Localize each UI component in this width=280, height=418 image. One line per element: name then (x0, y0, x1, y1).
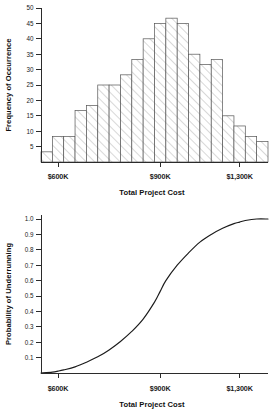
histogram-bar (120, 75, 131, 162)
y-tick-label: 0.8 (25, 246, 34, 253)
x-tick-label: $600K (48, 172, 70, 181)
histogram-bar (234, 126, 245, 162)
figure-page: 5101520253035404550 $600K$900K$1,300K To… (0, 0, 280, 418)
y-tick-label: 0.5 (25, 292, 34, 299)
histogram-y-axis-title: Frequency of Occurrence (4, 38, 13, 131)
histogram-bar (98, 85, 109, 162)
histogram-bar (52, 136, 63, 162)
y-tick-label: 1.0 (25, 215, 34, 222)
y-tick-label: 35 (26, 51, 34, 58)
y-tick-label: 10 (26, 128, 34, 135)
x-tick-label: $600K (48, 384, 70, 393)
scurve-x-ticks: $600K$900K$1,300K (48, 373, 254, 393)
histogram-bar (177, 23, 188, 162)
y-tick-label: 45 (26, 20, 34, 27)
y-tick-label: 30 (26, 66, 34, 73)
histogram-bar (41, 152, 52, 162)
histogram-bar (211, 59, 222, 162)
histogram-bar (155, 23, 166, 162)
histogram-bar (166, 18, 177, 162)
histogram-bar (257, 141, 268, 162)
histogram-y-ticks: 5101520253035404550 (26, 4, 41, 150)
histogram-bar (86, 106, 97, 162)
histogram-bars (41, 18, 268, 162)
histogram-bar (245, 136, 256, 162)
histogram-bar (189, 54, 200, 162)
histogram-bar (75, 111, 86, 162)
x-tick-label: $900K (150, 384, 172, 393)
histogram-svg: 5101520253035404550 $600K$900K$1,300K To… (0, 0, 280, 210)
histogram-bar (109, 85, 120, 162)
y-tick-label: 25 (26, 81, 34, 88)
y-tick-label: 0.9 (25, 231, 34, 238)
y-tick-label: 0.6 (25, 277, 34, 284)
scurve-x-axis-title: Total Project Cost (119, 400, 185, 409)
y-tick-label: 15 (26, 112, 34, 119)
y-tick-label: 5 (30, 143, 34, 150)
histogram-bar (143, 39, 154, 162)
x-tick-label: $900K (150, 172, 172, 181)
histogram-bar (132, 59, 143, 162)
scurve-y-ticks: 0.10.20.30.40.50.60.70.80.91.0 (25, 215, 41, 361)
scurve-y-axis-title: Probability of Underrunning (4, 243, 13, 345)
y-tick-label: 40 (26, 35, 34, 42)
cumulative-probability-curve (41, 219, 268, 373)
y-tick-label: 50 (26, 4, 34, 11)
y-tick-label: 0.1 (25, 354, 34, 361)
y-tick-label: 0.4 (25, 308, 34, 315)
x-tick-label: $1,300K (226, 384, 253, 393)
probability-s-curve-figure: 0.10.20.30.40.50.60.70.80.91.0 $600K$900… (0, 205, 280, 418)
scurve-svg: 0.10.20.30.40.50.60.70.80.91.0 $600K$900… (0, 205, 280, 418)
y-tick-label: 20 (26, 97, 34, 104)
histogram-bar (200, 64, 211, 162)
histogram-x-ticks: $600K$900K$1,300K (48, 162, 254, 181)
frequency-histogram-figure: 5101520253035404550 $600K$900K$1,300K To… (0, 0, 280, 210)
histogram-bar (223, 116, 234, 162)
y-tick-label: 0.7 (25, 262, 34, 269)
y-tick-label: 0.2 (25, 339, 34, 346)
histogram-bar (64, 136, 75, 162)
histogram-x-axis-title: Total Project Cost (119, 188, 185, 197)
x-tick-label: $1,300K (226, 172, 253, 181)
y-tick-label: 0.3 (25, 323, 34, 330)
